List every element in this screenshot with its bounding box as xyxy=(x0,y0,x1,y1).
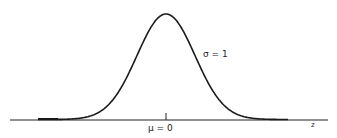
bell-curve xyxy=(38,14,288,119)
mu-label: μ = 0 xyxy=(148,124,173,133)
z-axis-label: z xyxy=(311,122,315,129)
normal-distribution-chart xyxy=(0,0,337,138)
sigma-label: σ = 1 xyxy=(203,50,228,59)
